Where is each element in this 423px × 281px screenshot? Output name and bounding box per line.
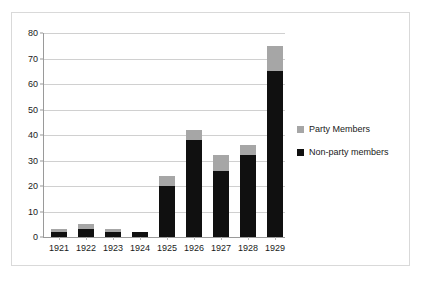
x-axis-tick-mark bbox=[194, 237, 195, 240]
x-axis-tick-mark bbox=[140, 237, 141, 240]
bar-segment-non-party-members[interactable] bbox=[186, 140, 202, 237]
bar-segment-non-party-members[interactable] bbox=[78, 229, 94, 237]
legend-label: Party Members bbox=[309, 125, 370, 134]
x-axis-tick-label: 1921 bbox=[49, 244, 69, 253]
bar-segment-party-members[interactable] bbox=[267, 46, 283, 72]
y-axis-tick-label: 30 bbox=[28, 156, 38, 165]
bar-segment-party-members[interactable] bbox=[240, 145, 256, 155]
y-axis-tick-label: 10 bbox=[28, 207, 38, 216]
gridline bbox=[43, 59, 285, 60]
bar-segment-party-members[interactable] bbox=[159, 176, 175, 186]
x-axis-tick-label: 1923 bbox=[103, 244, 123, 253]
x-axis-tick-label: 1924 bbox=[130, 244, 150, 253]
bar-segment-party-members[interactable] bbox=[213, 155, 229, 170]
y-axis-tick-label: 0 bbox=[33, 233, 38, 242]
x-axis-tick-label: 1928 bbox=[238, 244, 258, 253]
x-axis-tick-mark bbox=[167, 237, 168, 240]
y-axis-line bbox=[43, 33, 44, 238]
chart-legend: Party MembersNon-party members bbox=[297, 125, 389, 157]
gridline bbox=[43, 84, 285, 85]
plot-area: 01020304050607080 1921192219231924192519… bbox=[43, 33, 285, 238]
x-axis-tick-label: 1922 bbox=[76, 244, 96, 253]
gridline bbox=[43, 110, 285, 111]
legend-entry[interactable]: Party Members bbox=[297, 125, 389, 134]
bar-segment-non-party-members[interactable] bbox=[213, 171, 229, 237]
bar-group[interactable]: 1925 bbox=[159, 176, 175, 237]
bar-group[interactable]: 1926 bbox=[186, 130, 202, 237]
bar-segment-party-members[interactable] bbox=[186, 130, 202, 140]
bar-group[interactable]: 1923 bbox=[105, 229, 121, 237]
legend-entry[interactable]: Non-party members bbox=[297, 148, 389, 157]
gridline bbox=[43, 33, 285, 34]
bar-segment-non-party-members[interactable] bbox=[159, 186, 175, 237]
x-axis-tick-label: 1927 bbox=[211, 244, 231, 253]
bar-segment-non-party-members[interactable] bbox=[267, 71, 283, 237]
y-axis-tick-label: 60 bbox=[28, 80, 38, 89]
x-axis-tick-mark bbox=[59, 237, 60, 240]
gridline bbox=[43, 135, 285, 136]
chart-figure: 01020304050607080 1921192219231924192519… bbox=[11, 12, 410, 266]
x-axis-tick-label: 1925 bbox=[157, 244, 177, 253]
y-axis-tick-label: 80 bbox=[28, 29, 38, 38]
legend-swatch-party-members bbox=[297, 126, 304, 133]
legend-label: Non-party members bbox=[309, 148, 389, 157]
y-axis-tick-label: 50 bbox=[28, 105, 38, 114]
x-axis-tick-mark bbox=[275, 237, 276, 240]
x-axis-tick-mark bbox=[248, 237, 249, 240]
bar-segment-non-party-members[interactable] bbox=[240, 155, 256, 237]
bar-group[interactable]: 1927 bbox=[213, 155, 229, 237]
legend-swatch-non-party-members bbox=[297, 149, 304, 156]
x-axis-tick-mark bbox=[113, 237, 114, 240]
x-axis-tick-mark bbox=[86, 237, 87, 240]
x-axis-tick-label: 1929 bbox=[265, 244, 285, 253]
y-axis-tick-label: 70 bbox=[28, 54, 38, 63]
bar-group[interactable]: 1929 bbox=[267, 46, 283, 237]
bar-group[interactable]: 1921 bbox=[51, 229, 67, 237]
bar-group[interactable]: 1924 bbox=[132, 232, 148, 237]
bar-group[interactable]: 1922 bbox=[78, 224, 94, 237]
bar-group[interactable]: 1928 bbox=[240, 145, 256, 237]
y-axis-tick-label: 20 bbox=[28, 182, 38, 191]
x-axis-tick-label: 1926 bbox=[184, 244, 204, 253]
x-axis-tick-mark bbox=[221, 237, 222, 240]
y-axis-tick-label: 40 bbox=[28, 131, 38, 140]
